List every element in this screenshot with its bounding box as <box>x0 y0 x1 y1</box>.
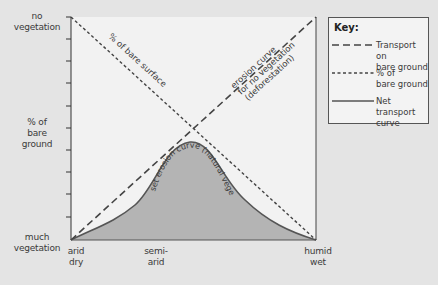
legend: Key: Transport on bare ground % of bare … <box>328 17 429 124</box>
legend-net-line1: Net transport <box>376 96 428 118</box>
x-label-semi-arid: semi- arid <box>136 246 176 268</box>
y-top-line1: no <box>4 11 70 22</box>
x-left-line2: dry <box>56 257 96 268</box>
x-mid-line2: arid <box>136 257 176 268</box>
x-label-arid: arid dry <box>56 246 96 268</box>
y-bottom-line1: much <box>4 232 70 243</box>
y-label-no-vegetation: no vegetation <box>4 11 70 33</box>
legend-net-line2: curve <box>376 118 428 129</box>
x-left-line1: arid <box>56 246 96 257</box>
legend-title: Key: <box>334 22 359 33</box>
x-label-humid: humid wet <box>298 246 338 268</box>
y-mid-line1: % of <box>4 117 70 128</box>
y-mid-line3: ground <box>4 139 70 150</box>
long-dash-swatch-icon <box>332 40 374 50</box>
x-right-line2: wet <box>298 257 338 268</box>
legend-bare-line2: bare ground <box>376 79 428 90</box>
x-right-line1: humid <box>298 246 338 257</box>
solid-line-swatch-icon <box>332 96 374 106</box>
legend-transport-line1: Transport on <box>376 40 428 62</box>
legend-bare-line1: % of <box>376 68 428 79</box>
y-label-bare-ground: % of bare ground <box>4 117 70 150</box>
y-mid-line2: bare <box>4 128 70 139</box>
short-dash-swatch-icon <box>332 68 374 78</box>
y-top-line2: vegetation <box>4 22 70 33</box>
x-mid-line1: semi- <box>136 246 176 257</box>
